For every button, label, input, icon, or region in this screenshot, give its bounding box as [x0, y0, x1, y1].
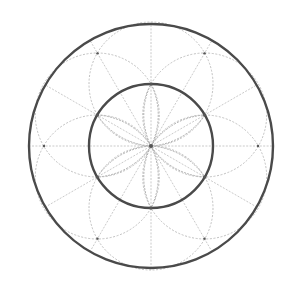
outer-node [203, 52, 205, 54]
inner-node [96, 113, 99, 116]
inner-node [149, 82, 152, 85]
inner-node [149, 206, 152, 209]
outer-node [257, 145, 259, 147]
center-node [149, 144, 153, 148]
outer-node [96, 52, 98, 54]
outer-node [203, 237, 205, 239]
inner-node [96, 175, 99, 178]
inner-node [203, 113, 206, 116]
outer-node [43, 145, 45, 147]
inner-node [203, 175, 206, 178]
geometric-diagram [0, 0, 291, 283]
outer-node [96, 237, 98, 239]
